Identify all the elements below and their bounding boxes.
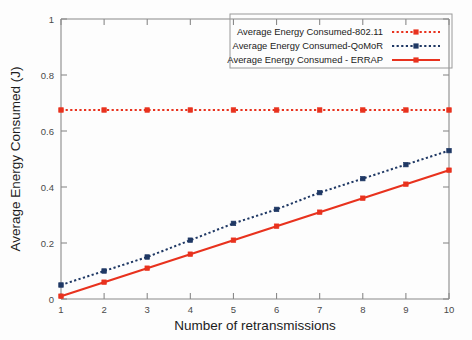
data-point-marker xyxy=(145,108,150,113)
data-point-marker xyxy=(188,252,193,257)
legend-label-1: Average Energy Consumed-QoMoR xyxy=(233,40,384,51)
data-point-marker xyxy=(231,238,236,243)
data-point-marker xyxy=(404,108,409,113)
data-point-marker xyxy=(317,210,322,215)
data-point-marker xyxy=(317,190,322,195)
legend-marker-1 xyxy=(413,43,418,48)
x-tick-label: 7 xyxy=(317,304,322,315)
data-point-marker xyxy=(102,269,107,274)
x-tick-label: 6 xyxy=(274,304,279,315)
y-tick-label: 0.2 xyxy=(41,238,54,249)
x-tick-label: 10 xyxy=(444,304,455,315)
x-tick-label: 8 xyxy=(360,304,365,315)
data-point-marker xyxy=(59,294,64,299)
data-point-marker xyxy=(404,162,409,167)
x-tick-label: 1 xyxy=(58,304,63,315)
x-tick-label: 9 xyxy=(403,304,408,315)
legend-marker-0 xyxy=(413,29,418,34)
data-point-marker xyxy=(360,176,365,181)
data-point-marker xyxy=(447,148,452,153)
y-tick-label: 0.4 xyxy=(41,182,54,193)
x-tick-label: 2 xyxy=(101,304,106,315)
y-tick-label: 0.6 xyxy=(41,126,54,137)
x-tick-label: 4 xyxy=(188,304,193,315)
data-point-marker xyxy=(274,108,279,113)
chart-figure: 00.20.40.60.81 12345678910 Number of ret… xyxy=(0,0,472,340)
data-point-marker xyxy=(447,168,452,173)
data-point-marker xyxy=(231,221,236,226)
data-point-marker xyxy=(145,266,150,271)
data-point-marker xyxy=(360,108,365,113)
data-point-marker xyxy=(102,108,107,113)
y-tick-label: 1 xyxy=(49,14,54,25)
data-point-marker xyxy=(59,108,64,113)
data-point-marker xyxy=(231,108,236,113)
data-point-marker xyxy=(274,207,279,212)
data-point-marker xyxy=(102,280,107,285)
data-point-marker xyxy=(188,108,193,113)
data-point-marker xyxy=(145,255,150,260)
data-point-marker xyxy=(59,283,64,288)
x-tick-label: 3 xyxy=(145,304,150,315)
data-point-marker xyxy=(317,108,322,113)
x-axis-title: Number of retransmissions xyxy=(174,318,336,333)
y-tick-label: 0.8 xyxy=(41,70,54,81)
energy-consumption-line-chart: 00.20.40.60.81 12345678910 Number of ret… xyxy=(0,0,472,340)
y-tick-label: 0 xyxy=(49,294,54,305)
legend-label-2: Average Energy Consumed - ERRAP xyxy=(227,54,383,65)
y-axis-title: Average Energy Consumed (J) xyxy=(8,66,23,251)
data-point-marker xyxy=(274,224,279,229)
data-point-marker xyxy=(447,108,452,113)
legend-label-0: Average Energy Consumed-802.11 xyxy=(237,26,383,37)
legend-marker-2 xyxy=(413,57,418,62)
data-point-marker xyxy=(404,182,409,187)
x-tick-label: 5 xyxy=(231,304,236,315)
data-point-marker xyxy=(360,196,365,201)
data-point-marker xyxy=(188,238,193,243)
